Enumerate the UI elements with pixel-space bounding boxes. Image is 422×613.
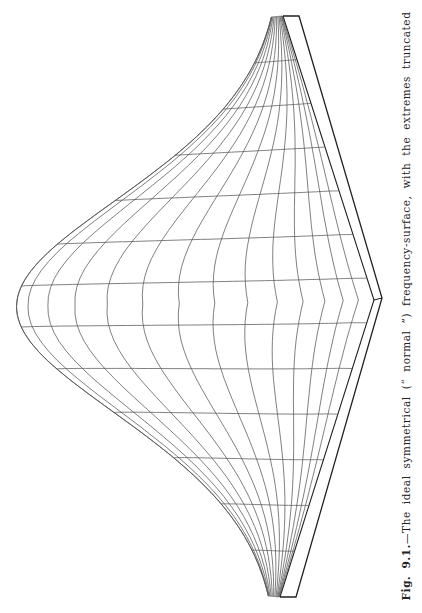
grid-line-u	[252, 550, 293, 551]
figure-label: Fig. 9.1.	[400, 544, 412, 600]
grid-line-v	[75, 17, 273, 596]
grid-line-v	[272, 16, 287, 596]
caption-text: —The ideal symmetrical (“ normal ”) freq…	[400, 12, 412, 545]
grid-line-u	[57, 368, 339, 369]
grid-line-u	[21, 323, 351, 327]
grid-line-u	[115, 191, 329, 200]
grid-line-u	[22, 278, 352, 286]
base-slab-inner-edge	[280, 16, 374, 597]
grid-line-u	[223, 104, 307, 110]
grid-line-u	[114, 412, 328, 414]
grid-line-v	[142, 17, 275, 597]
grid-line-v	[213, 17, 279, 597]
base-slab-outer-edge	[280, 16, 382, 597]
grid-line-u	[255, 60, 296, 63]
grid-line-u	[221, 504, 305, 506]
grid-line-v	[48, 17, 272, 596]
grid-line-u	[175, 147, 319, 155]
grid-line-v	[107, 17, 274, 596]
surface-wireframe	[17, 16, 368, 597]
base-slab-corner	[374, 298, 382, 300]
grid-line-u	[58, 235, 340, 244]
grid-line-v	[278, 16, 303, 597]
figure-caption: Fig. 9.1.—The ideal symmetrical (“ norma…	[396, 6, 410, 606]
grid-line-u	[174, 458, 318, 460]
base-slab	[280, 16, 382, 597]
normal-frequency-surface-figure	[0, 0, 422, 613]
